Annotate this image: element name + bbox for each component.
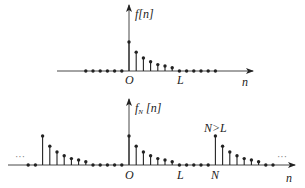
diagram-canvas [0, 0, 305, 188]
bottom-zero-sample-dot [199, 163, 202, 166]
top-zero-sample-dot [84, 69, 87, 72]
top-zero-sample-dot [199, 69, 202, 72]
top-sample-dot [127, 40, 130, 43]
bottom-origin-label: O [125, 169, 134, 181]
bottom-sample-dot [70, 157, 73, 160]
bottom-zero-sample-dot [99, 163, 102, 166]
bottom-period-label: N [211, 169, 219, 181]
top-zero-sample-dot [120, 69, 123, 72]
top-stems [84, 40, 217, 72]
bottom-sample-dot [84, 160, 87, 163]
bottom-zero-sample-dot [106, 163, 109, 166]
bottom-function-arg: [n] [146, 101, 161, 115]
top-zero-sample-dot [192, 69, 195, 72]
bottom-sample-dot [142, 150, 145, 153]
top-plot [57, 5, 253, 73]
top-sample-dot [156, 63, 159, 66]
top-length-label: L [177, 74, 184, 86]
top-zero-sample-dot [214, 69, 217, 72]
bottom-sample-dot [171, 160, 174, 163]
bottom-stems [27, 134, 275, 166]
bottom-sample-dot [235, 154, 238, 157]
bottom-sample-dot [228, 150, 231, 153]
bottom-zero-sample-dot [91, 163, 94, 166]
bottom-function-subscript: N [138, 108, 143, 116]
bottom-zero-sample-dot [271, 163, 274, 166]
bottom-sample-dot [77, 158, 80, 161]
bottom-sample-dot [55, 150, 58, 153]
bottom-zero-sample-dot [207, 163, 210, 166]
top-zero-sample-dot [106, 69, 109, 72]
bottom-zero-sample-dot [192, 163, 195, 166]
bottom-length-label: L [177, 169, 184, 181]
top-zero-sample-dot [113, 69, 116, 72]
bottom-sample-dot [221, 144, 224, 147]
ellipsis-left: ··· [15, 152, 25, 162]
bottom-sample-dot [41, 134, 44, 137]
bottom-zero-sample-dot [27, 163, 30, 166]
top-zero-sample-dot [207, 69, 210, 72]
top-axis-label: n [242, 76, 248, 88]
bottom-zero-sample-dot [34, 163, 37, 166]
bottom-zero-sample-dot [264, 163, 267, 166]
top-sample-dot [149, 60, 152, 63]
bottom-sample-dot [135, 144, 138, 147]
ellipsis-right: ··· [277, 152, 287, 162]
top-zero-sample-dot [185, 69, 188, 72]
bottom-sample-dot [156, 157, 159, 160]
bottom-condition-label: N>L [204, 122, 227, 134]
bottom-zero-sample-dot [185, 163, 188, 166]
bottom-zero-sample-dot [113, 163, 116, 166]
bottom-axis-label: n [286, 172, 292, 184]
bottom-zero-sample-dot [178, 163, 181, 166]
bottom-sample-dot [127, 134, 130, 137]
bottom-sample-dot [250, 158, 253, 161]
bottom-sample-dot [62, 154, 65, 157]
top-sample-dot [135, 50, 138, 53]
top-origin-label: O [125, 74, 134, 86]
top-sample-dot [171, 66, 174, 69]
bottom-sample-dot [163, 158, 166, 161]
bottom-sample-dot [257, 160, 260, 163]
top-function-label: f[n] [135, 8, 154, 20]
bottom-function-label: fN [n] [135, 102, 161, 116]
top-sample-dot [142, 56, 145, 59]
bottom-zero-sample-dot [120, 163, 123, 166]
bottom-sample-dot [48, 144, 51, 147]
bottom-sample-dot [149, 154, 152, 157]
top-sample-dot [163, 64, 166, 67]
top-zero-sample-dot [99, 69, 102, 72]
bottom-sample-dot [243, 157, 246, 160]
top-zero-sample-dot [91, 69, 94, 72]
